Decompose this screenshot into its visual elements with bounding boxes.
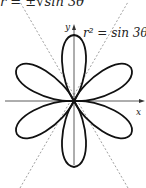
petal-lower-left	[11, 91, 80, 145]
petal-upper-left	[11, 58, 80, 112]
x-axis-label: x	[136, 107, 141, 117]
petal-upper-right	[68, 58, 137, 112]
top-equation-label: r = ±√sin 3θ	[0, 0, 84, 9]
petal-lower-right	[68, 91, 137, 145]
curve-equation-label: r² = sin 3θ	[83, 26, 146, 40]
y-axis-label: y	[65, 22, 70, 32]
x-axis-arrow	[139, 99, 145, 103]
y-axis-arrow	[72, 24, 76, 30]
